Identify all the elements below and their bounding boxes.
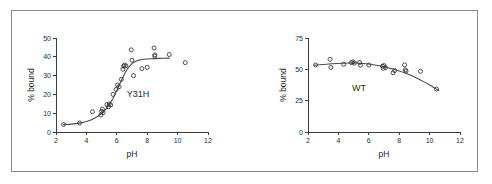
data-point-y31h-21 xyxy=(130,58,134,62)
data-point-y31h-24 xyxy=(145,65,149,69)
data-point-wt-19 xyxy=(418,69,422,73)
panel-annotation-wt: WT xyxy=(352,83,366,93)
x-tick-label-wt-5: 12 xyxy=(456,137,464,144)
x-tick-label-y31h-5: 12 xyxy=(204,137,212,144)
x-axis-title-y31h: pH xyxy=(127,149,138,159)
data-point-wt-16 xyxy=(403,63,407,67)
chart-panel-wt: 025507524681012pH% boundWT xyxy=(246,11,479,173)
data-point-y31h-29 xyxy=(183,61,187,65)
chart-svg-y31h: 0102030405024681012pH% boundY31H xyxy=(12,11,246,173)
data-point-wt-2 xyxy=(329,65,333,69)
x-tick-label-wt-1: 4 xyxy=(336,137,340,144)
data-point-y31h-22 xyxy=(132,74,136,78)
figure-frame: 0102030405024681012pH% boundY31H 0255075… xyxy=(11,10,478,172)
x-tick-label-y31h-4: 10 xyxy=(174,137,182,144)
data-point-y31h-20 xyxy=(129,48,133,52)
x-tick-label-y31h-0: 2 xyxy=(54,137,58,144)
data-point-y31h-2 xyxy=(90,110,94,114)
y-tick-label-y31h-5: 50 xyxy=(43,35,51,42)
y-tick-label-y31h-1: 10 xyxy=(43,110,51,117)
x-tick-label-wt-2: 6 xyxy=(367,137,371,144)
y-tick-label-y31h-4: 40 xyxy=(43,53,51,60)
x-tick-label-wt-3: 8 xyxy=(397,137,401,144)
chart-svg-wt: 025507524681012pH% boundWT xyxy=(246,11,479,173)
x-axis-title-wt: pH xyxy=(379,149,390,159)
x-tick-label-y31h-3: 8 xyxy=(145,137,149,144)
y-tick-label-wt-0: 0 xyxy=(299,129,303,136)
y-tick-label-wt-2: 50 xyxy=(295,66,303,73)
x-tick-label-wt-4: 10 xyxy=(426,137,434,144)
y-tick-label-y31h-3: 30 xyxy=(43,72,51,79)
y-axis-title-wt: % bound xyxy=(278,68,288,102)
data-point-y31h-23 xyxy=(140,67,144,71)
chart-panel-y31h: 0102030405024681012pH% boundY31H xyxy=(12,11,246,173)
data-point-wt-18 xyxy=(404,69,408,73)
y-tick-label-wt-3: 75 xyxy=(295,35,303,42)
y-tick-label-y31h-2: 20 xyxy=(43,91,51,98)
x-tick-label-wt-0: 2 xyxy=(306,137,310,144)
x-tick-label-y31h-1: 4 xyxy=(84,137,88,144)
y-tick-label-wt-1: 25 xyxy=(295,97,303,104)
data-point-wt-1 xyxy=(328,57,332,61)
y-axis-title-y31h: % bound xyxy=(26,68,36,102)
data-point-y31h-28 xyxy=(167,53,171,57)
data-point-y31h-25 xyxy=(152,46,156,50)
y-tick-label-y31h-0: 0 xyxy=(47,129,51,136)
panel-annotation-y31h: Y31H xyxy=(127,89,150,99)
x-tick-label-y31h-2: 6 xyxy=(115,137,119,144)
figure-container: 0102030405024681012pH% boundY31H 0255075… xyxy=(0,0,492,184)
